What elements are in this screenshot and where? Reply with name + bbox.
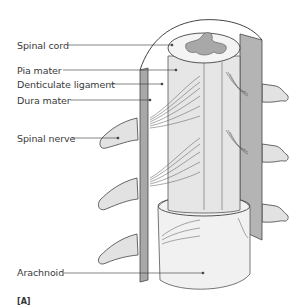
label-denticulate-ligament: Denticulate ligament [17,79,115,90]
label-spinal-cord: Spinal cord [17,40,69,51]
panel-label: [A] [17,297,31,306]
spinal-nerves-right [262,84,288,222]
spinal-nerves-left [98,118,138,264]
label-spinal-nerve: Spinal nerve [17,133,75,144]
label-dura-mater: Dura mater [17,95,71,106]
label-arachnoid: Arachnoid [17,267,64,278]
label-pia-mater: Pia mater [17,65,62,76]
